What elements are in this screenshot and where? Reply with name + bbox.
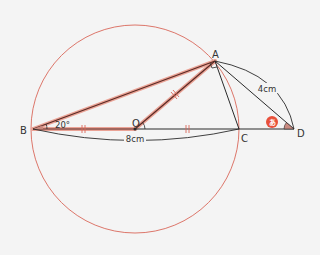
point-label-A: A bbox=[212, 49, 219, 60]
point-label-D: D bbox=[297, 128, 305, 139]
segment-BA bbox=[33, 61, 215, 129]
point-label-B: B bbox=[20, 125, 27, 136]
measure-label-BC: 8cm bbox=[126, 134, 144, 144]
angle-badge-label: あ bbox=[269, 118, 276, 127]
angle-O-arc bbox=[143, 123, 145, 130]
point-label-O: O bbox=[132, 118, 140, 129]
segment-OA bbox=[135, 61, 215, 129]
point-label-C: C bbox=[241, 133, 248, 144]
measure-label-AD: 4cm bbox=[258, 84, 276, 94]
geometry-diagram: 8cm 4cm 20° あ A B O C D bbox=[0, 0, 320, 255]
angle-label-B: 20° bbox=[55, 120, 70, 130]
